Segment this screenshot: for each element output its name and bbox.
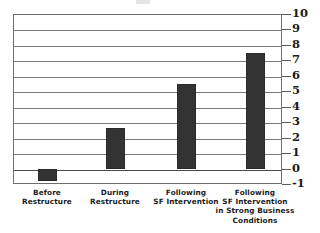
y-tickmark-10 — [282, 14, 291, 15]
category-label-line: in Strong Business — [214, 206, 296, 215]
y-axis-tick-label: 0 — [292, 163, 318, 174]
gridline-7 — [14, 61, 281, 62]
x-axis-category-label-3: FollowingSF Interventionin Strong Busine… — [214, 188, 296, 225]
category-label-line: Conditions — [214, 216, 296, 225]
gridline-4 — [14, 108, 281, 109]
gridline-2 — [14, 139, 281, 140]
bar-1 — [106, 128, 125, 168]
y-axis-tick-label: 5 — [292, 85, 318, 96]
y-axis-tick-label: 7 — [292, 54, 318, 65]
category-label-line: SF Intervention — [214, 197, 296, 206]
y-tickmark-6 — [282, 76, 291, 77]
y-axis-tick-label: 9 — [292, 23, 318, 34]
bar-3 — [246, 53, 265, 169]
category-label-line: During — [83, 188, 147, 197]
category-label-line: SF Intervention — [148, 197, 224, 206]
y-tickmark--1 — [282, 184, 291, 185]
bar-chart-figure: 109876543210-1BeforeRestructureDuringRes… — [0, 0, 320, 233]
y-tickmark-0 — [282, 169, 291, 170]
y-tickmark-9 — [282, 29, 291, 30]
y-tickmark-7 — [282, 60, 291, 61]
gridline-8 — [14, 46, 281, 47]
x-axis-category-label-2: FollowingSF Intervention — [148, 188, 224, 206]
y-tickmark-4 — [282, 107, 291, 108]
category-label-line: Restructure — [83, 197, 147, 206]
category-label-line: Following — [148, 188, 224, 197]
y-axis-tick-label: 1 — [292, 147, 318, 158]
cropped-title-fragment — [136, 0, 150, 4]
y-tickmark-8 — [282, 45, 291, 46]
y-axis-tick-label: 8 — [292, 39, 318, 50]
y-tickmark-5 — [282, 91, 291, 92]
category-label-line: Following — [214, 188, 296, 197]
y-axis-tick-label: 10 — [292, 8, 318, 19]
gridline-5 — [14, 92, 281, 93]
plot-area — [13, 14, 282, 184]
gridline-3 — [14, 123, 281, 124]
gridline-1 — [14, 154, 281, 155]
gridline-6 — [14, 77, 281, 78]
y-tickmark-2 — [282, 138, 291, 139]
x-axis-category-label-0: BeforeRestructure — [15, 188, 79, 206]
gridline-9 — [14, 30, 281, 31]
y-axis-tick-label: 6 — [292, 70, 318, 81]
category-label-line: Before — [15, 188, 79, 197]
bar-0 — [38, 169, 57, 181]
category-label-line: Restructure — [15, 197, 79, 206]
bar-2 — [177, 84, 196, 169]
y-tickmark-1 — [282, 153, 291, 154]
y-tickmark-3 — [282, 122, 291, 123]
y-axis-tick-label: 3 — [292, 116, 318, 127]
y-axis-tick-label: 2 — [292, 132, 318, 143]
y-axis-tick-label: 4 — [292, 101, 318, 112]
x-axis-category-label-1: DuringRestructure — [83, 188, 147, 206]
